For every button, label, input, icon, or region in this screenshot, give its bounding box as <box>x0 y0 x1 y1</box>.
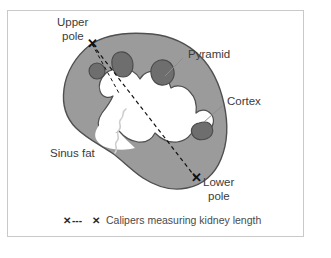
legend-marker-left-icon: ✕ <box>63 215 71 226</box>
kidney-diagram: ✕ ✕ Upper pole Pyramid Cortex Sinus fat … <box>0 0 331 258</box>
upper-pole-marker-icon: ✕ <box>87 36 98 51</box>
pyramid-shape-mid <box>151 60 174 85</box>
legend-caliper-text: Calipers measuring kidney length <box>106 214 261 226</box>
pyramid-shape-right <box>191 122 212 140</box>
label-upper-pole-line1: Upper <box>57 16 88 28</box>
lower-pole-marker-icon: ✕ <box>191 170 202 185</box>
pyramid-shape-left <box>89 63 105 79</box>
label-sinus-fat: Sinus fat <box>50 147 96 159</box>
label-cortex: Cortex <box>227 95 261 107</box>
label-lower-pole-line1: Lower <box>203 176 234 188</box>
label-lower-pole-line2: pole <box>208 190 230 202</box>
label-upper-pole-line2: pole <box>62 30 84 42</box>
legend-marker-right-icon: ✕ <box>92 215 100 226</box>
label-pyramid: Pyramid <box>188 48 230 60</box>
figure-root: ✕ ✕ Upper pole Pyramid Cortex Sinus fat … <box>0 0 331 258</box>
legend-marker-dashes-icon: --- <box>72 215 82 226</box>
